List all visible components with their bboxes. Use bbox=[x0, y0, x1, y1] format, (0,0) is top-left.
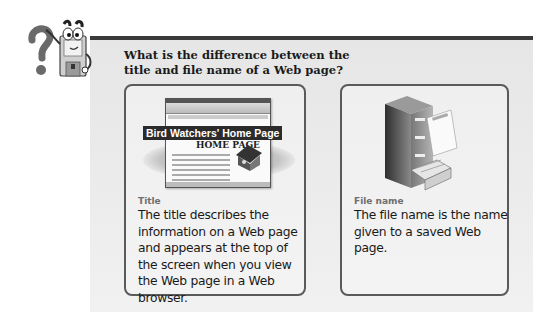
web-browser-window-icon: HOME PAGE Bird Watchers' Home Page bbox=[143, 96, 295, 194]
floppy-disk-mascot-icon bbox=[26, 18, 106, 86]
file-cabinet-icon bbox=[377, 94, 477, 194]
card-heading-file-name: File name bbox=[354, 196, 404, 206]
title-card: HOME PAGE Bird Watchers' Home Page Title… bbox=[124, 84, 306, 296]
card-body-title: The title describes the information on a… bbox=[138, 207, 308, 306]
birdhouse-icon bbox=[232, 143, 264, 173]
file-name-card: File name The file name is the name give… bbox=[340, 84, 509, 296]
card-body-file-name: The file name is the name given to a sav… bbox=[354, 207, 512, 257]
card-heading-title: Title bbox=[138, 196, 161, 206]
page-title-banner: Bird Watchers' Home Page bbox=[143, 126, 282, 140]
question-heading: What is the difference between the title… bbox=[124, 48, 364, 78]
top-divider-bar bbox=[90, 36, 533, 40]
